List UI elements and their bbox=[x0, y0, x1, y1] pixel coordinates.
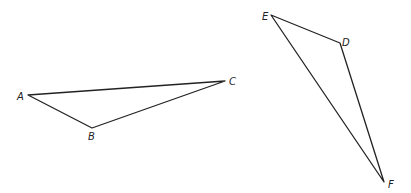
triangle-def: E D F bbox=[262, 11, 394, 190]
geometry-figure: A B C E D F bbox=[0, 0, 411, 193]
triangle-def-outline bbox=[271, 15, 384, 182]
vertex-label-a: A bbox=[16, 91, 24, 102]
vertex-label-c: C bbox=[229, 76, 236, 87]
vertex-label-f: F bbox=[388, 179, 394, 190]
triangle-abc: A B C bbox=[16, 76, 236, 142]
vertex-label-d: D bbox=[342, 37, 350, 48]
vertex-label-b: B bbox=[88, 131, 95, 142]
vertex-label-e: E bbox=[262, 11, 269, 22]
triangle-abc-outline bbox=[28, 81, 225, 128]
